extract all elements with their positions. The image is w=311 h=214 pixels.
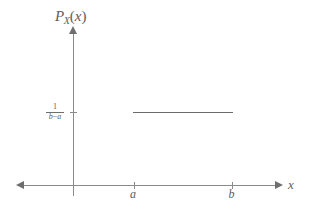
x-tick-label-b: b xyxy=(229,188,235,200)
y-axis-label-main: P xyxy=(55,8,64,24)
x-axis-label: x xyxy=(288,178,294,191)
fraction-denominator: b−a xyxy=(43,112,67,121)
uniform-pdf-segment xyxy=(133,112,233,113)
x-axis-arrow-right-icon xyxy=(275,181,283,189)
x-axis-arrow-left-icon xyxy=(16,181,24,189)
x-axis-line xyxy=(22,185,281,186)
y-axis-label: PX(x) xyxy=(55,9,86,26)
fraction-numerator: 1 xyxy=(43,103,67,112)
y-tick-mark-density xyxy=(70,112,77,113)
y-axis-arrow-up-icon xyxy=(69,26,77,34)
x-tick-label-a: a xyxy=(130,188,136,200)
y-axis-label-paren-close: ) xyxy=(81,8,86,24)
y-axis-line xyxy=(73,32,74,196)
uniform-distribution-figure: PX(x) x a b 1 b−a xyxy=(0,0,311,214)
y-tick-label-density: 1 b−a xyxy=(43,103,67,121)
fraction-denominator-right: a xyxy=(57,112,61,121)
